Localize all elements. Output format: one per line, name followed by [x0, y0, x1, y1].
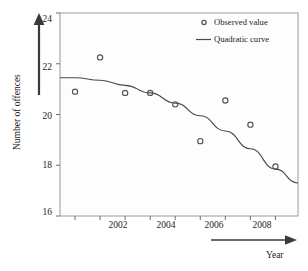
y-tick-label-16: 16	[30, 207, 52, 217]
legend-item-quadratic-curve: Quadratic curve	[214, 34, 269, 44]
y-axis-arrow	[34, 13, 45, 95]
x-tick-label-2006: 2006	[196, 220, 232, 230]
y-axis-title: Number of offences	[12, 74, 22, 150]
x-axis-arrow	[211, 235, 297, 245]
y-tick-label-20: 20	[30, 111, 52, 121]
y-tick-label-24: 24	[30, 14, 52, 24]
y-axis-ticks	[56, 13, 60, 216]
x-tick-label-2002: 2002	[100, 220, 136, 230]
x-axis-title: Year	[266, 250, 284, 260]
x-tick-label-2008: 2008	[244, 220, 280, 230]
y-tick-label-22: 22	[30, 62, 52, 72]
y-tick-label-18: 18	[30, 160, 52, 170]
legend-item-observed-value: Observed value	[214, 17, 268, 27]
x-tick-label-2004: 2004	[148, 220, 184, 230]
chart-figure: 24 22 20 18 16 2002 2004 2006 2008 Numbe…	[0, 0, 308, 271]
